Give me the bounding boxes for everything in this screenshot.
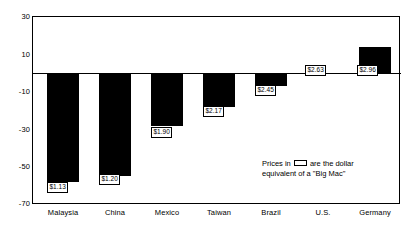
x-tick-label-taiwan: Taiwan	[193, 208, 245, 217]
legend-text-prefix: Prices in	[262, 159, 291, 168]
x-tick-label-brazil: Brazil	[245, 208, 297, 217]
y-tick-label: -10	[4, 88, 30, 96]
y-tick-label: 30	[4, 13, 30, 21]
value-label-taiwan: $2.17	[203, 106, 224, 117]
x-tick-label-malaysia: Malaysia	[37, 208, 89, 217]
legend-swatch-icon	[294, 160, 307, 166]
legend-note: Prices in are the dollar equivalent of a…	[262, 159, 354, 179]
value-label-brazil: $2.45	[255, 85, 276, 96]
y-axis: 30 10 -10 -30 -50 -70	[0, 0, 30, 242]
bar-taiwan[interactable]	[203, 73, 235, 107]
y-tick-label: -70	[4, 200, 30, 208]
legend-line-2: equivalent of a "Big Mac"	[262, 169, 354, 179]
y-tick-label: 10	[4, 51, 30, 59]
value-label-us: $2.63	[305, 65, 326, 76]
x-tick-label-china: China	[89, 208, 141, 217]
value-label-germany: $2.96	[357, 65, 378, 76]
x-tick-label-us: U.S.	[297, 208, 349, 217]
bar-malaysia[interactable]	[47, 73, 79, 182]
bar-mexico[interactable]	[151, 73, 183, 126]
legend-text-suffix: are the dollar	[310, 159, 354, 168]
x-tick-label-mexico: Mexico	[141, 208, 193, 217]
legend-line-1: Prices in are the dollar	[262, 159, 354, 169]
x-tick-label-germany: Germany	[349, 208, 401, 217]
value-label-china: $1.20	[99, 174, 120, 185]
bar-chart: 30 10 -10 -30 -50 -70 $1.13 $1.20 $1.90 …	[0, 0, 418, 242]
x-axis: Malaysia China Mexico Taiwan Brazil U.S.…	[32, 208, 400, 226]
y-tick-label: -50	[4, 163, 30, 171]
y-tick-label: -30	[4, 126, 30, 134]
value-label-mexico: $1.90	[151, 127, 172, 138]
value-label-malaysia: $1.13	[47, 182, 68, 193]
bar-china[interactable]	[99, 73, 131, 176]
